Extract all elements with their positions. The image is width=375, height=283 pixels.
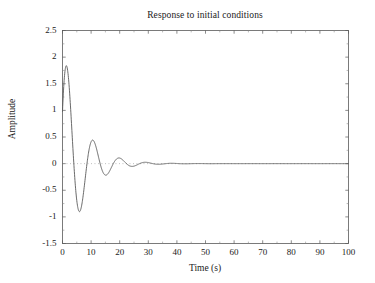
x-tick-label: 0	[48, 247, 78, 257]
x-tick-label: 100	[334, 247, 364, 257]
axis-ticks	[63, 31, 349, 244]
y-tick-label: 2.5	[21, 25, 57, 35]
x-tick-label: 40	[162, 247, 192, 257]
y-tick-label: 1.5	[21, 78, 57, 88]
x-tick-label: 80	[276, 247, 306, 257]
y-tick-label: 2	[21, 51, 57, 61]
y-tick-label: 0.5	[21, 131, 57, 141]
figure-canvas: Response to initial conditions Amplitude…	[0, 0, 375, 283]
y-tick-label: -1	[21, 211, 57, 221]
x-tick-label: 20	[105, 247, 135, 257]
x-tick-label: 60	[219, 247, 249, 257]
data-series-response	[63, 66, 349, 212]
y-tick-label: -0.5	[21, 184, 57, 194]
x-tick-label: 70	[248, 247, 278, 257]
x-tick-label: 10	[76, 247, 106, 257]
x-tick-label: 50	[191, 247, 221, 257]
y-tick-label: 0	[21, 158, 57, 168]
y-tick-label: 1	[21, 104, 57, 114]
x-tick-label: 30	[133, 247, 163, 257]
axes-frame	[63, 31, 349, 244]
x-tick-label: 90	[305, 247, 335, 257]
